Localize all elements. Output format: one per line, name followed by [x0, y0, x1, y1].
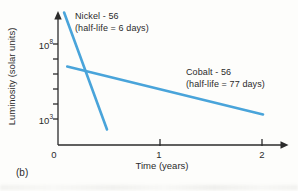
- y-tick-exponent: 3: [49, 113, 53, 120]
- x-axis-arrow-icon: [281, 141, 289, 148]
- cobalt-56-annotation: Cobalt - 56 (half-life = 77 days): [186, 67, 265, 90]
- cobalt-56-name: Cobalt - 56: [186, 67, 265, 79]
- cobalt-56-halflife: (half-life = 77 days): [186, 79, 265, 91]
- x-tick-label-1: 1: [149, 149, 169, 160]
- panel-label: (b): [16, 167, 28, 178]
- y-tick-mantissa: 10: [39, 115, 50, 126]
- y-tick-label-1e8: 108: [39, 37, 53, 52]
- x-axis-title: Time (years): [102, 160, 222, 171]
- y-axis-title: Luminosity (solar units): [6, 12, 17, 142]
- x-tick-label-2: 2: [252, 149, 272, 160]
- y-tick-label-1e3: 103: [39, 112, 53, 127]
- y-tick-mantissa: 10: [39, 40, 50, 51]
- nickel-56-annotation: Nickel - 56 (half-life = 6 days): [75, 11, 149, 34]
- x-tick-label-0: 0: [44, 149, 64, 160]
- cropped-caption-artifact: [0, 185, 298, 190]
- luminosity-decay-figure: Luminosity (solar units) 108 103 0 1 2 N…: [0, 0, 298, 191]
- nickel-56-halflife: (half-life = 6 days): [75, 23, 149, 35]
- y-tick-exponent: 8: [49, 38, 53, 45]
- nickel-56-name: Nickel - 56: [75, 11, 149, 23]
- y-axis-arrow-icon: [54, 11, 61, 20]
